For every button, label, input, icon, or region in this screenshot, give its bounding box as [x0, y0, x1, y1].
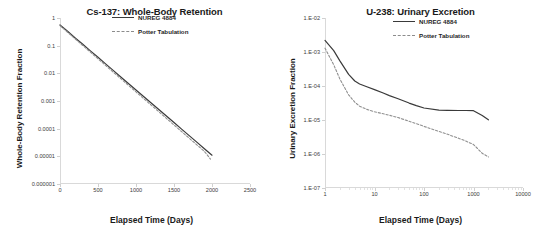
legend-label-nureg: NUREG 4884	[138, 14, 176, 21]
x-axis-title-cs137: Elapsed Time (Days)	[0, 215, 273, 225]
x-minor-tick-mark	[349, 188, 350, 190]
legend-line-dashed-icon	[393, 32, 415, 39]
x-minor-tick-mark	[360, 188, 361, 190]
legend-label-potter: Potter Tabulation	[138, 28, 188, 35]
legend-item-nureg[interactable]: NUREG 4884	[112, 14, 188, 21]
y-tick-label: 0.00001	[35, 153, 55, 159]
x-minor-tick-mark	[413, 188, 414, 190]
x-minor-tick-mark	[364, 188, 365, 190]
y-axis-title-cs137: Whole-Body Retention Fraction	[15, 34, 24, 184]
y-tick-label: 1.E-07	[304, 185, 320, 191]
x-minor-tick-mark	[409, 188, 410, 190]
x-axis-title-u238: Elapsed Time (Days)	[273, 215, 546, 225]
x-minor-tick-mark	[518, 188, 519, 190]
figure-container: Cs-137: Whole-Body Retention Whole-Body …	[0, 0, 546, 231]
x-minor-tick-mark	[355, 188, 356, 190]
legend-label-nureg: NUREG 4884	[419, 18, 457, 25]
x-tick-label: 10	[371, 191, 377, 197]
legend-item-potter[interactable]: Potter Tabulation	[112, 28, 188, 35]
x-tick-label: 2000	[206, 187, 218, 193]
x-minor-tick-mark	[469, 188, 470, 190]
y-tick-label: 0.01	[44, 70, 55, 76]
series-line-nureg	[60, 25, 212, 155]
x-minor-tick-mark	[471, 188, 472, 190]
y-axis-title-u238: Urinary Excretion Fraction	[288, 34, 297, 184]
y-tick-label: 0.001	[41, 98, 55, 104]
y-tick-label: 1.E-02	[304, 15, 320, 21]
series-line-potter	[60, 26, 210, 159]
plot-area-cs137: 10.10.010.0010.00010.000010.000001050010…	[60, 18, 250, 184]
legend-cs137: NUREG 4884 Potter Tabulation	[112, 14, 188, 35]
x-minor-tick-mark	[459, 188, 460, 190]
legend-line-solid-icon	[393, 18, 415, 25]
chart-panel-cs137: Cs-137: Whole-Body Retention Whole-Body …	[0, 0, 273, 231]
x-minor-tick-mark	[422, 188, 423, 190]
chart-panel-u238: U-238: Urinary Excretion Urinary Excreti…	[273, 0, 546, 231]
x-tick-label: 10000	[515, 191, 531, 197]
x-minor-tick-mark	[463, 188, 464, 190]
x-minor-tick-mark	[466, 188, 467, 190]
legend-line-solid-icon	[112, 14, 134, 21]
series-canvas-cs137	[60, 18, 250, 184]
legend-item-potter[interactable]: Potter Tabulation	[393, 32, 469, 39]
x-tick-label: 1500	[168, 187, 180, 193]
x-tick-label: 500	[93, 187, 102, 193]
x-minor-tick-mark	[508, 188, 509, 190]
x-minor-tick-mark	[416, 188, 417, 190]
x-tick-label: 0	[58, 187, 61, 193]
series-canvas-u238	[325, 18, 523, 188]
x-tick-label: 100	[419, 191, 428, 197]
y-tick-label: 0.1	[47, 43, 55, 49]
legend-label-potter: Potter Tabulation	[419, 32, 469, 39]
x-minor-tick-mark	[503, 188, 504, 190]
x-tick-label: 2500	[244, 187, 256, 193]
x-tick-label: 1000	[467, 191, 479, 197]
y-tick-label: 1.E-04	[304, 83, 320, 89]
y-tick-label: 1.E-05	[304, 117, 320, 123]
x-minor-tick-mark	[404, 188, 405, 190]
x-minor-tick-mark	[497, 188, 498, 190]
x-minor-tick-mark	[515, 188, 516, 190]
y-tick-label: 0.000001	[32, 181, 55, 187]
y-tick-label: 1.E-03	[304, 49, 320, 55]
x-minor-tick-mark	[448, 188, 449, 190]
plot-area-u238: 1.E-021.E-031.E-041.E-051.E-061.E-071101…	[325, 18, 523, 188]
y-tick-label: 0.0001	[38, 126, 55, 132]
x-minor-tick-mark	[398, 188, 399, 190]
x-minor-tick-mark	[488, 188, 489, 190]
legend-u238: NUREG 4884 Potter Tabulation	[393, 18, 469, 39]
x-minor-tick-mark	[454, 188, 455, 190]
x-minor-tick-mark	[512, 188, 513, 190]
x-tick-label: 1000	[130, 187, 142, 193]
x-minor-tick-mark	[419, 188, 420, 190]
x-minor-tick-mark	[389, 188, 390, 190]
x-minor-tick-mark	[340, 188, 341, 190]
y-tick-label: 1	[52, 15, 55, 21]
x-minor-tick-mark	[521, 188, 522, 190]
legend-line-dashed-icon	[112, 28, 134, 35]
y-tick-label: 1.E-06	[304, 151, 320, 157]
x-tick-label: 1	[323, 191, 326, 197]
x-minor-tick-mark	[367, 188, 368, 190]
series-line-nureg	[325, 40, 488, 119]
x-minor-tick-mark	[372, 188, 373, 190]
x-minor-tick-mark	[439, 188, 440, 190]
x-minor-tick-mark	[370, 188, 371, 190]
legend-item-nureg[interactable]: NUREG 4884	[393, 18, 469, 25]
